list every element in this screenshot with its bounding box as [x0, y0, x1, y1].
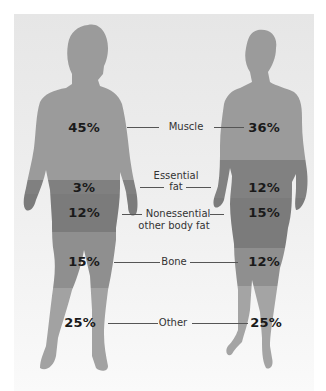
male-muscle-value: 45%: [68, 120, 100, 135]
male-body-bands: [0, 0, 163, 391]
label-nonessential-fat-line2: other body fat: [138, 220, 209, 232]
female-bone-band: [163, 248, 326, 286]
label-nonessential-fat-line1: Nonessential: [146, 208, 211, 220]
female-body-bands: [163, 0, 326, 391]
leader-line-muscle-left: [127, 127, 159, 128]
leader-line-bone-right: [190, 262, 238, 263]
label-other: Other: [159, 317, 187, 329]
leader-line-nonessential-fat-right: [210, 214, 224, 215]
label-bone: Bone: [161, 256, 186, 268]
leader-line-muscle-right: [214, 127, 244, 128]
male-silhouette: [0, 0, 326, 391]
leader-line-essential-fat-left: [140, 187, 164, 188]
leader-line-essential-fat-right: [186, 187, 211, 188]
leader-line-other-left: [108, 323, 158, 324]
male-essential-fat-value: 3%: [73, 180, 95, 195]
male-bone-value: 15%: [68, 254, 100, 269]
label-muscle: Muscle: [169, 121, 204, 133]
female-essential-fat-value: 12%: [248, 180, 280, 195]
female-muscle-band: [163, 0, 326, 160]
female-other-band: [163, 286, 326, 391]
male-muscle-band: [0, 0, 163, 180]
body-composition-diagram: 45% 3% 12% 15% 25% 36% 12% 15% 12% 25% M…: [0, 0, 326, 391]
female-other-value: 25%: [250, 315, 282, 330]
female-bone-value: 12%: [248, 254, 280, 269]
male-other-value: 25%: [64, 315, 96, 330]
leader-line-nonessential-fat-left: [122, 214, 142, 215]
female-muscle-value: 36%: [248, 120, 280, 135]
label-essential-fat-line2: fat: [169, 181, 183, 193]
leader-line-bone-left: [114, 262, 160, 263]
leader-line-other-right: [192, 323, 248, 324]
male-other-band: [0, 288, 163, 391]
male-nonessential-fat-value: 12%: [68, 205, 100, 220]
female-nonessential-fat-value: 15%: [248, 205, 280, 220]
